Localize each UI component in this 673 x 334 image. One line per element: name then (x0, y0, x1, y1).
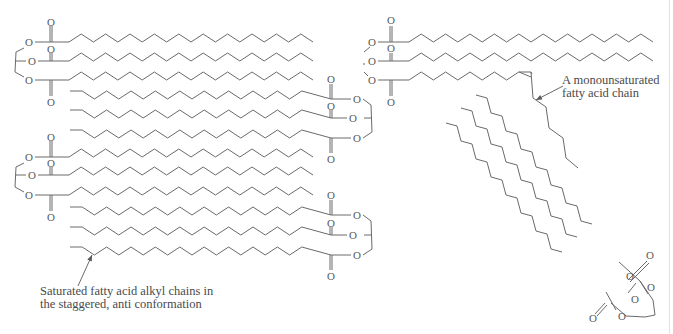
saturated-fatty-acid-chain (51, 53, 313, 61)
carbonyl-double-bond (330, 84, 332, 99)
carbonyl-double-bond (330, 200, 332, 215)
label-arrows (78, 86, 563, 286)
oxygen-atom: O (368, 36, 376, 48)
cis-double-bond (519, 72, 531, 77)
saturated-chains-label: Saturated fatty acid alkyl chains in the… (40, 285, 213, 311)
oxygen-atom: O (327, 153, 335, 165)
oxygen-atom: O (353, 209, 361, 221)
oxygen-atom: O (353, 249, 361, 261)
monounsaturated-fatty-acid-chain (409, 72, 531, 80)
oxygen-atom: O (28, 55, 36, 67)
saturated-fatty-acid-chain (70, 227, 331, 235)
oxygen-atom: O (47, 96, 55, 108)
oxygen-atom: O (349, 112, 357, 124)
oxygen-atom: O (626, 270, 634, 282)
carbonyl-double-bond (50, 141, 52, 157)
oxygen-atom: O (368, 55, 376, 67)
oxygen-atom: O (25, 36, 33, 48)
saturated-fatty-acid-chain (51, 167, 313, 175)
saturated-label-line2: the staggered, anti conformation (40, 298, 213, 311)
carbonyl-double-bond (50, 195, 52, 211)
oxygen-atom: O (618, 310, 626, 322)
oxygen-atom: O (647, 281, 655, 293)
oxygen-atom: O (353, 93, 361, 105)
saturated-fatty-acid-chain (70, 110, 331, 118)
saturated-fatty-acid-chain (476, 95, 592, 224)
oxygen-atom: O (327, 270, 335, 282)
carbonyl-double-bond (50, 26, 52, 42)
saturated-fatty-acid-chain (409, 53, 653, 61)
triglyceride-saturated-3: OOOOOO (15, 131, 313, 223)
carbonyl-double-bond (390, 53, 392, 61)
triglyceride-saturated-2: OOOOOO (70, 73, 372, 165)
oxygen-atom: O (327, 217, 335, 229)
triglyceride-saturated-1: OOOOOO (15, 16, 313, 108)
oxygen-atom: O (47, 157, 55, 169)
oxygen-atom: O (327, 100, 335, 112)
saturated-fatty-acid-chain (70, 247, 331, 255)
oxygen-atom: O (387, 14, 395, 26)
saturated-fatty-acid-chain (51, 149, 313, 157)
saturated-fatty-acid-chain (51, 187, 313, 195)
oxygen-atom: O (25, 151, 33, 163)
saturated-fatty-acid-chain (446, 123, 562, 252)
carbonyl-double-bond (390, 26, 392, 42)
saturated-fatty-acid-chain (51, 34, 313, 42)
oxygen-atom: O (327, 189, 335, 201)
saturated-fatty-acid-chain (461, 108, 577, 237)
monounsaturated-label-line2: fatty acid chain (562, 87, 660, 100)
saturated-fatty-acid-chain (409, 34, 653, 42)
oxygen-atom: O (47, 131, 55, 143)
oxygen-atom: O (353, 132, 361, 144)
glycerol-backbone (15, 48, 24, 77)
oxygen-atom: O (47, 16, 55, 28)
glycerol-backbone (15, 163, 24, 192)
saturated-fatty-acid-chain (51, 72, 313, 80)
oxygen-atom: O (28, 169, 36, 181)
carbonyl-double-bond (390, 80, 392, 96)
oxygen-atom: O (47, 43, 55, 55)
saturated-fatty-acid-chain (70, 91, 331, 99)
saturated-fatty-acid-chain (70, 207, 331, 215)
monounsaturated-chain-label: A monounsaturated fatty acid chain (562, 74, 660, 100)
carbonyl-double-bond (50, 80, 52, 96)
oxygen-atom: O (25, 189, 33, 201)
oxygen-atom: O (25, 74, 33, 86)
triglyceride-saturated-4: OOOOOO (70, 189, 372, 282)
saturated-fatty-acid-chain (70, 130, 331, 138)
oxygen-atom: O (646, 249, 654, 261)
oxygen-atom: O (387, 96, 395, 108)
oxygen-atom: O (47, 211, 55, 223)
carbonyl-double-bond (330, 255, 332, 270)
oxygen-atom: O (349, 229, 357, 241)
carbonyl-double-bond (330, 138, 332, 153)
oxygen-atom: O (589, 312, 597, 324)
oxygen-atom: O (631, 293, 639, 305)
oxygen-atom: O (368, 74, 376, 86)
oxygen-atom: O (327, 73, 335, 85)
oxygen-atom: O (387, 42, 395, 54)
